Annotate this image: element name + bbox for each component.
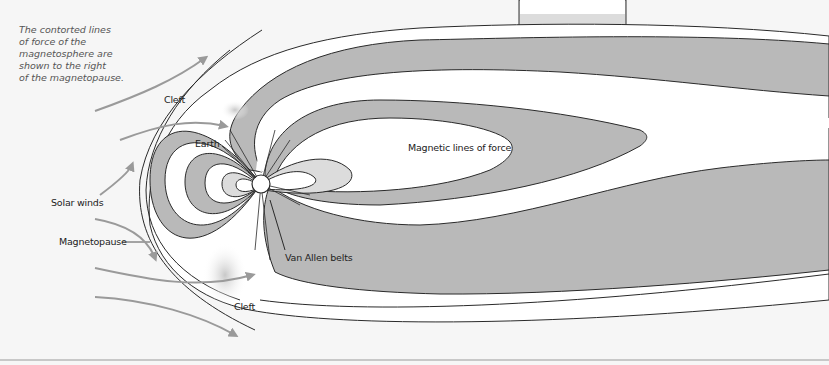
label-magnetic-lines-of-force: Magnetic lines of force <box>408 142 511 153</box>
earth-icon <box>252 175 270 193</box>
label-van-allen-belts: Van Allen belts <box>285 252 352 263</box>
label-magnetopause: Magnetopause <box>59 236 127 247</box>
label-earth: Earth <box>195 138 219 149</box>
solar-wind-arrow-3 <box>100 165 132 195</box>
label-cleft-top: Cleft <box>164 94 185 105</box>
cleft-stipple-bottom <box>203 243 247 307</box>
label-solar-winds: Solar winds <box>51 197 103 208</box>
label-cleft-bottom: Cleft <box>234 301 255 312</box>
cleft-stipple-top <box>221 100 249 120</box>
diagram-caption: The contorted lines of force of the magn… <box>19 24 189 84</box>
